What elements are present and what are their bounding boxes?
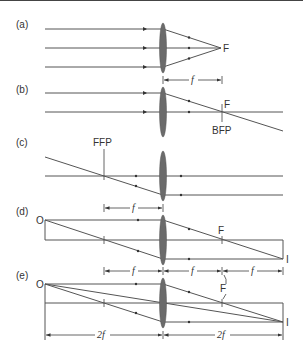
two-f-label: 2f (217, 329, 226, 340)
refracted-ray-top (163, 29, 221, 48)
panel-d: (d) O F I f f f (16, 206, 289, 276)
ffp-label: FFP (93, 137, 112, 148)
panel-label-e: (e) (16, 270, 28, 281)
ray-dot (188, 291, 190, 293)
bfp-label: BFP (212, 125, 232, 136)
object-label-e: O (36, 279, 44, 290)
focal-length-label: f (191, 265, 195, 276)
convex-lens (160, 23, 167, 73)
ray-dot (188, 57, 190, 59)
panel-label-b: (b) (16, 84, 28, 95)
focal-length-label-c: f (132, 202, 136, 213)
ray-dot (180, 175, 182, 177)
ray-dot (188, 321, 190, 323)
ray-dot (188, 100, 190, 102)
panel-c: (c) FFP f (16, 137, 283, 213)
focal-length-label: f (132, 265, 136, 276)
convex-lens (160, 278, 167, 328)
object-label-d: O (36, 215, 44, 226)
ray-dot (188, 47, 190, 49)
ray-dot (135, 175, 137, 177)
focal-length-label: f (251, 265, 255, 276)
ray-dot (188, 111, 190, 113)
panel-a: (a) F f (16, 19, 229, 85)
focus-label-b: F (224, 99, 230, 110)
convex-lens (160, 215, 167, 265)
ray-dot (137, 250, 139, 252)
focus-leader-line (223, 294, 226, 299)
two-f-label: 2f (97, 329, 106, 340)
ray-dot (135, 312, 137, 314)
panel-label-d: (d) (16, 206, 28, 217)
convex-lens (160, 151, 167, 201)
convex-lens (160, 87, 167, 137)
image-label-d: I (286, 254, 289, 265)
ray-dot (180, 194, 182, 196)
panel-e: (e) O F I 2f 2f (16, 270, 289, 340)
focus-label-e: F (220, 283, 226, 294)
panel-label-a: (a) (16, 19, 28, 30)
panel-label-c: (c) (16, 137, 28, 148)
ray-dot (188, 228, 190, 230)
focus-label-d: F (218, 225, 224, 236)
ray-dot (188, 258, 190, 260)
focal-length-label-a: f (191, 74, 195, 85)
ray-dot (135, 283, 137, 285)
focus-label-a: F (223, 43, 229, 54)
ray-dot (188, 36, 190, 38)
image-label-e: I (286, 317, 289, 328)
ray-dot (137, 219, 139, 221)
lens-diagram: (a) F f (b) F BFP (c) (0, 0, 303, 353)
refracted-ray-bottom (163, 48, 221, 67)
ray-dot (135, 185, 137, 187)
panel-b: (b) F BFP (16, 84, 283, 137)
